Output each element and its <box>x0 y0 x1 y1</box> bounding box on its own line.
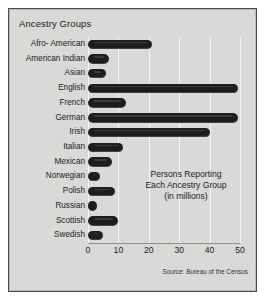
bar <box>88 69 106 78</box>
bar-row <box>88 140 240 155</box>
x-axis-tick-labels: 01020304050 <box>88 245 240 259</box>
bar-row <box>88 155 240 170</box>
category-label: Irish <box>70 125 85 140</box>
x-tick-label: 40 <box>205 245 215 255</box>
category-label: Scottish <box>56 214 85 229</box>
bar <box>88 84 238 93</box>
x-tick-label: 10 <box>114 245 124 255</box>
x-tick-label: 30 <box>174 245 184 255</box>
bar-row <box>88 52 240 67</box>
bar-row <box>88 111 240 126</box>
bar <box>88 40 152 49</box>
bar-row <box>88 96 240 111</box>
bar <box>88 216 118 225</box>
x-axis-line <box>88 243 240 244</box>
category-label: Swedish <box>54 228 85 243</box>
category-label: Russian <box>55 199 85 214</box>
chart-figure: Ancestry Groups Afro- AmericanAmerican I… <box>8 8 257 292</box>
category-label: French <box>60 96 85 111</box>
category-label: Polish <box>63 184 85 199</box>
chart-annotation: Persons ReportingEach Ancestry Group(in … <box>127 169 245 203</box>
bar <box>88 98 126 107</box>
annotation-line: Persons Reporting <box>127 169 245 180</box>
chart-title: Ancestry Groups <box>19 18 91 29</box>
bar-row <box>88 66 240 81</box>
category-axis-labels: Afro- AmericanAmerican IndianAsianEnglis… <box>9 37 85 243</box>
category-label: Italian <box>63 140 85 155</box>
category-label: Norwegian <box>46 169 85 184</box>
bar <box>88 54 109 63</box>
source-note: Source: Bureau of the Census <box>162 268 248 275</box>
bar-row <box>88 37 240 52</box>
category-label: Afro- American <box>31 37 85 52</box>
x-tick-label: 50 <box>235 245 245 255</box>
category-label: American Indian <box>26 52 85 67</box>
x-tick-label: 20 <box>144 245 154 255</box>
bar <box>88 187 115 196</box>
bar-series <box>88 37 240 243</box>
bar-row <box>88 81 240 96</box>
category-label: German <box>55 111 85 126</box>
bar <box>88 143 123 152</box>
bar <box>88 201 97 210</box>
bar <box>88 172 100 181</box>
annotation-line: (in millions) <box>127 191 245 202</box>
bar <box>88 231 103 240</box>
annotation-line: Each Ancestry Group <box>127 180 245 191</box>
bar <box>88 157 112 166</box>
bar <box>88 128 210 137</box>
category-label: English <box>58 81 85 96</box>
bar <box>88 113 238 122</box>
plot-area <box>88 37 240 243</box>
gridline-50 <box>240 37 241 243</box>
bar-row <box>88 214 240 229</box>
bar-row <box>88 125 240 140</box>
category-label: Mexican <box>55 155 86 170</box>
category-label: Asian <box>65 66 85 81</box>
x-tick-label: 0 <box>86 245 91 255</box>
bar-row <box>88 228 240 243</box>
